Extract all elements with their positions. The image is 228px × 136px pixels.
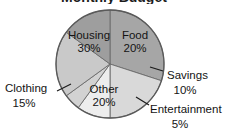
slice-value-entertainment: 5%: [172, 118, 189, 130]
slice-label-other: Other: [90, 83, 119, 95]
slice-label-savings: Savings: [167, 69, 208, 81]
slice-value-food: 20%: [123, 42, 146, 54]
slice-value-clothing: 15%: [12, 97, 35, 109]
chart-title: Monthly Budget: [0, 0, 228, 4]
slice-value-housing: 30%: [77, 42, 100, 54]
slice-label-clothing: Clothing: [5, 82, 47, 94]
pie-chart-figure: Monthly Budget Housing30%Food20%Savings1…: [0, 0, 228, 136]
slice-label-housing: Housing: [68, 29, 110, 41]
pie-chart-svg: Housing30%Food20%Savings10%Entertainment…: [0, 0, 228, 136]
chart-title-clip: Monthly Budget: [0, 0, 228, 4]
slice-label-food: Food: [122, 29, 148, 41]
slice-value-other: 20%: [92, 96, 115, 108]
slice-value-savings: 10%: [173, 84, 196, 96]
slice-label-entertainment: Entertainment: [150, 103, 222, 115]
